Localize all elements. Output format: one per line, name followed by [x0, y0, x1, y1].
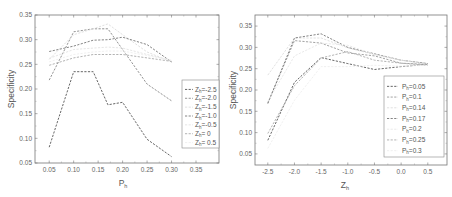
- left-plot: 0.050.100.150.200.250.300.350.050.100.15…: [6, 11, 219, 189]
- x-tick-label: -1.0: [342, 168, 354, 175]
- series-line: [49, 51, 171, 62]
- x-tick-label: 0.20: [116, 166, 129, 173]
- x-tick-label: 0.25: [141, 166, 154, 173]
- y-tick-label: 0.35: [19, 11, 32, 18]
- x-tick-label: -1.5: [316, 168, 328, 175]
- y-tick-label: 0.20: [19, 85, 32, 92]
- x-tick-label: 0.5: [423, 168, 432, 175]
- x-tick-label: 0.05: [43, 166, 56, 173]
- x-tick-label: 0.35: [190, 166, 203, 173]
- y-tick-label: 0.25: [19, 61, 32, 68]
- series-line: [268, 38, 428, 75]
- y-tick-label: 0.10: [239, 129, 252, 136]
- x-tick-label: -2.0: [289, 168, 301, 175]
- right-plot: 0.050.100.150.200.250.300.35-2.5-2.0-1.5…: [228, 15, 447, 191]
- y-tick-label: 0.05: [239, 150, 252, 157]
- x-tick-label: 0.10: [67, 166, 80, 173]
- x-tick-label: -0.5: [369, 168, 381, 175]
- x-tick-label: 0.30: [165, 166, 178, 173]
- x-tick-label: 0.15: [92, 166, 105, 173]
- y-axis-label: Specificity: [228, 70, 238, 109]
- chart-canvas: 0.050.100.150.200.250.300.350.050.100.15…: [0, 0, 452, 197]
- y-axis-label: Specificity: [6, 69, 16, 108]
- x-tick-label: 0.0: [397, 168, 406, 175]
- y-tick-label: 0.25: [239, 65, 252, 72]
- x-axis-label: Zh: [341, 180, 349, 191]
- y-tick-label: 0.35: [239, 22, 252, 29]
- y-tick-label: 0.15: [19, 110, 32, 117]
- y-tick-label: 0.30: [19, 36, 32, 43]
- y-tick-label: 0.15: [239, 108, 252, 115]
- y-tick-label: 0.05: [19, 159, 32, 166]
- y-tick-label: 0.20: [239, 86, 252, 93]
- x-tick-label: -2.5: [262, 168, 274, 175]
- y-tick-label: 0.10: [19, 135, 32, 142]
- y-tick-label: 0.30: [239, 44, 252, 51]
- series-line: [49, 72, 171, 157]
- x-axis-label: Ph: [119, 178, 128, 189]
